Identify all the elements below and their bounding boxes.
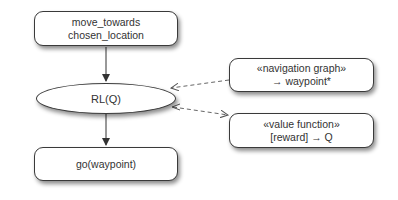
node-go-label: go(waypoint) bbox=[76, 158, 136, 171]
node-move-towards: move_towards chosen_location bbox=[34, 11, 178, 46]
diagram-canvas: move_towards chosen_location RL(Q) go(wa… bbox=[0, 0, 398, 200]
node-go: go(waypoint) bbox=[34, 147, 178, 181]
node-value-line1: «value function» bbox=[263, 118, 339, 131]
node-value-function: «value function» [reward] → Q bbox=[229, 113, 374, 148]
edge-rl-to-value bbox=[173, 107, 228, 115]
edge-nav-to-rl bbox=[171, 80, 229, 88]
node-value-line2: [reward] → Q bbox=[270, 131, 332, 144]
node-nav-line2: → waypoint* bbox=[272, 75, 331, 88]
node-move-towards-line1: move_towards bbox=[72, 16, 140, 29]
node-nav-line1: «navigation graph» bbox=[257, 62, 346, 75]
node-navigation-graph: «navigation graph» → waypoint* bbox=[229, 58, 374, 92]
node-move-towards-line2: chosen_location bbox=[68, 29, 144, 42]
node-rl: RL(Q) bbox=[36, 83, 176, 114]
node-rl-label: RL(Q) bbox=[91, 93, 121, 105]
